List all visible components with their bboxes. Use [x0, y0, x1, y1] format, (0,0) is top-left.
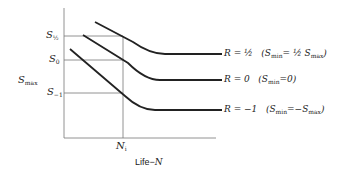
y-axis-label: Smax [18, 74, 38, 86]
curve-r-0 [83, 35, 222, 80]
curve-r-half [95, 22, 222, 54]
x-tick-ni: Ni [116, 140, 127, 152]
curve-label-r-half: R = ½ (Smin= ½ Smax) [224, 48, 327, 59]
curve-label-r-minus1: R = −1 (Smin=−Smax) [224, 104, 325, 115]
y-tick-s-minus1: S−1 [47, 86, 63, 98]
y-tick-s-0: S0 [49, 53, 60, 65]
curve-label-r-0: R = 0 (Smin=0) [224, 74, 296, 85]
y-tick-s-half: S½ [46, 29, 59, 41]
x-axis-label: Life−N [135, 157, 163, 167]
